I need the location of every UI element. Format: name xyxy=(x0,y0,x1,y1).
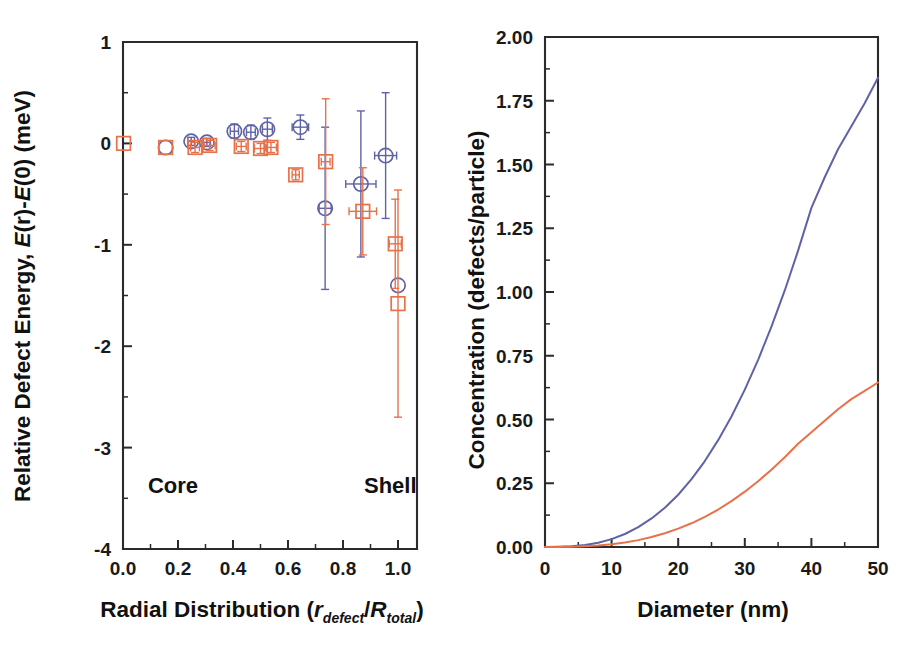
left-series-orange-squares xyxy=(117,99,405,417)
left-y-tick-label: -1 xyxy=(94,235,111,256)
y-title-mid: (r)- xyxy=(10,201,35,232)
left-x-tick-label: 1.0 xyxy=(385,558,411,579)
x-title-R: R xyxy=(370,597,387,622)
right-y-tick-label: 0.25 xyxy=(496,473,533,494)
right-axes xyxy=(545,37,878,547)
right-tick-labels: 0.000.250.500.751.001.251.501.752.000102… xyxy=(496,27,889,579)
right-x-tick-label: 50 xyxy=(867,558,888,579)
right-y-tick-label: 0.50 xyxy=(496,410,533,431)
y-title-lead: Relative Defect Energy, xyxy=(10,247,35,502)
right-y-tick-label: 0.00 xyxy=(496,537,533,558)
curve-orange-curve xyxy=(545,383,878,547)
right-y-tick-label: 1.25 xyxy=(496,218,533,239)
left-y-tick-label: -4 xyxy=(94,539,111,560)
right-y-tick-label: 1.00 xyxy=(496,282,533,303)
y-title-e2: E xyxy=(10,185,35,201)
left-y-axis-title: Relative Defect Energy, E(r)-E(0) (meV) xyxy=(10,90,35,502)
y-title-tail: (0) (meV) xyxy=(10,90,35,186)
left-x-tick-label: 0.0 xyxy=(110,558,136,579)
left-y-tick-label: 0 xyxy=(100,133,111,154)
right-data-series xyxy=(545,78,878,547)
left-series-blue-circles xyxy=(158,93,405,293)
figure-two-panel-plot: 10-1-2-3-40.00.20.40.60.81.0 CoreShell R… xyxy=(0,0,914,656)
x-title-r-sub: defect xyxy=(323,610,366,626)
left-x-tick-label: 0.4 xyxy=(220,558,247,579)
left-y-tick-label: -2 xyxy=(94,336,111,357)
right-x-tick-label: 0 xyxy=(540,558,551,579)
right-plot-frame xyxy=(545,37,878,547)
right-y-tick-label: 2.00 xyxy=(496,27,533,48)
left-y-tick-label: -3 xyxy=(94,438,111,459)
annotation-shell: Shell xyxy=(364,473,417,498)
right-plot-svg: 0.000.250.500.751.001.251.501.752.000102… xyxy=(460,0,914,656)
svg-text:Relative Defect Energy, E(r)-E: Relative Defect Energy, E(r)-E(0) (meV) xyxy=(10,90,35,502)
right-y-tick-label: 1.50 xyxy=(496,155,533,176)
right-x-tick-label: 10 xyxy=(601,558,622,579)
x-title-lead: Radial Distribution ( xyxy=(100,597,314,622)
left-x-axis-title: Radial Distribution (rdefect/Rtotal) xyxy=(100,597,423,626)
left-x-tick-label: 0.2 xyxy=(165,558,191,579)
right-y-axis-title: Concentration (defects/particle) xyxy=(464,131,489,470)
x-title-R-sub: total xyxy=(387,610,418,626)
left-annotations: CoreShell xyxy=(148,473,417,498)
left-y-tick-label: 1 xyxy=(100,32,111,53)
left-plot-svg: 10-1-2-3-40.00.20.40.60.81.0 CoreShell R… xyxy=(0,0,460,656)
right-x-tick-label: 30 xyxy=(734,558,755,579)
data-marker-circle xyxy=(158,140,172,154)
right-x-tick-label: 20 xyxy=(668,558,689,579)
left-x-tick-label: 0.6 xyxy=(275,558,301,579)
right-x-tick-label: 40 xyxy=(801,558,822,579)
right-y-tick-label: 0.75 xyxy=(496,346,533,367)
x-title-tail: ) xyxy=(416,597,424,622)
annotation-core: Core xyxy=(148,473,198,498)
left-data-series xyxy=(117,93,405,417)
left-x-tick-label: 0.8 xyxy=(330,558,356,579)
y-title-e1: E xyxy=(10,231,35,247)
right-x-axis-title: Diameter (nm) xyxy=(637,597,788,622)
curve-blue-curve xyxy=(545,78,878,547)
panel-left-scatter: 10-1-2-3-40.00.20.40.60.81.0 CoreShell R… xyxy=(0,0,460,656)
right-y-tick-label: 1.75 xyxy=(496,91,533,112)
right-y-title-text: Concentration (defects/particle) xyxy=(464,131,489,470)
panel-right-line: 0.000.250.500.751.001.251.501.752.000102… xyxy=(460,0,914,656)
